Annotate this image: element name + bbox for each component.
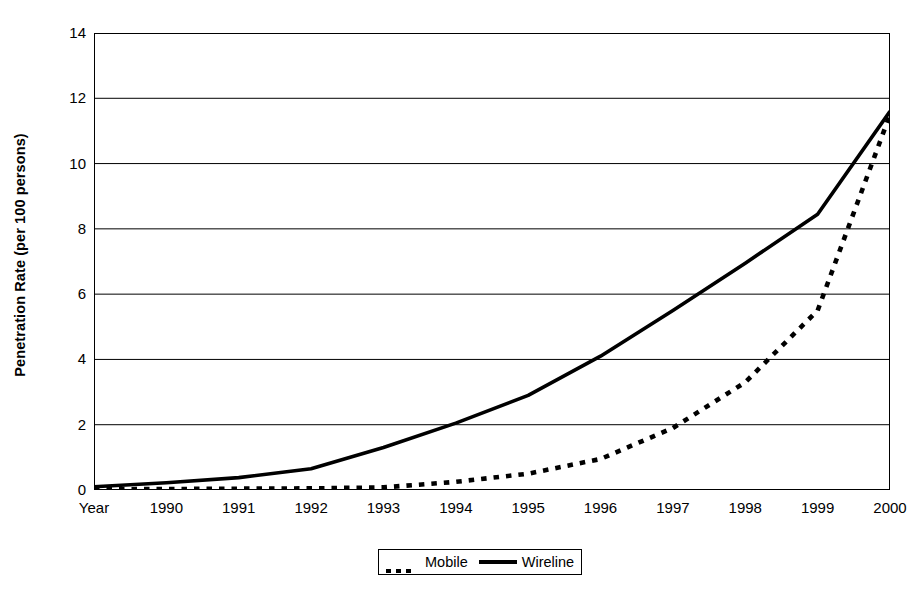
y-axis-tick-label: 12	[46, 90, 86, 105]
y-axis-tick-label: 4	[46, 351, 86, 366]
legend-entry-wireline: Wireline	[479, 554, 574, 570]
y-axis-tick-label: 2	[46, 417, 86, 432]
x-axis-tick-label: 1990	[126, 500, 206, 515]
gridlines	[94, 98, 890, 424]
series-line-wireline	[94, 111, 890, 486]
series-line-mobile	[94, 115, 890, 490]
x-axis-tick-label: 1992	[271, 500, 351, 515]
y-axis-tick-label: 10	[46, 156, 86, 171]
y-axis-tick-label: 14	[46, 25, 86, 40]
y-axis-tick-label: 8	[46, 221, 86, 236]
legend-entry-mobile: Mobile	[386, 554, 468, 570]
x-axis-tick-label: 1993	[343, 500, 423, 515]
x-axis-tick-label: 2000	[850, 500, 911, 515]
y-axis-tick-label: 0	[46, 482, 86, 497]
y-axis-title: Penetration Rate (per 100 persons)	[0, 0, 40, 510]
x-axis-tick-label: 1998	[705, 500, 785, 515]
solid-line-swatch-icon	[479, 560, 517, 564]
x-axis-tick-label: 1996	[561, 500, 641, 515]
y-axis-tick-label: 6	[46, 286, 86, 301]
x-axis-tick-labels: Year199019911992199319941995199619971998…	[0, 500, 904, 530]
plot-area-svg	[94, 33, 890, 490]
x-axis-tick-label: 1995	[488, 500, 568, 515]
chart-legend: Mobile Wireline	[378, 549, 582, 575]
legend-label-wireline: Wireline	[522, 554, 574, 570]
y-axis-title-text: Penetration Rate (per 100 persons)	[12, 133, 28, 377]
x-axis-tick-label: Year	[54, 500, 134, 515]
x-axis-tick-label: 1991	[199, 500, 279, 515]
x-axis-tick-label: 1994	[416, 500, 496, 515]
x-axis-tick-label: 1997	[633, 500, 713, 515]
legend-label-mobile: Mobile	[425, 554, 468, 570]
series-layer	[94, 111, 890, 489]
dotted-line-swatch-icon	[386, 560, 420, 564]
x-axis-tick-label: 1999	[778, 500, 858, 515]
